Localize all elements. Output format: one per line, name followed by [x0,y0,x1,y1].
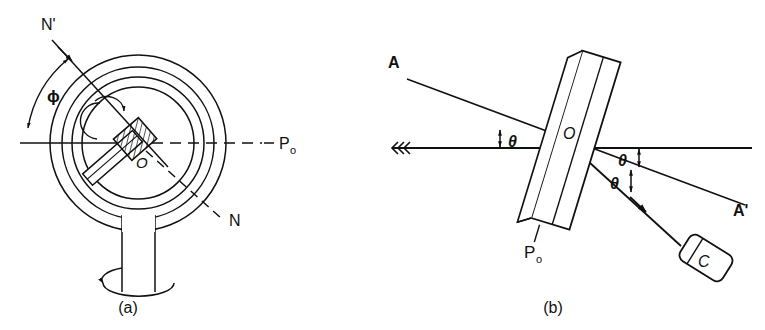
label-plate-p0-subscript: o [536,253,542,265]
caption-panel-a: (a) [118,299,138,316]
label-axis-p0: P [279,135,290,152]
label-plate-p0: P [524,243,535,262]
label-angle-phi: ϕ [47,87,60,106]
label-detector-c: C [698,253,710,270]
caption-panel-b: (b) [543,299,563,316]
stem-ring-join-mask [122,215,155,232]
label-ray-aprime: A' [733,202,748,219]
label-centre-o-b: O [563,125,575,142]
label-ray-a: A [388,54,400,71]
label-angle-theta-2: θ [618,152,627,169]
label-normal-n: N [229,212,241,229]
label-angle-theta-3: θ [610,175,619,192]
label-axis-p0-subscript: o [290,144,296,156]
label-angle-theta-1: θ [508,133,517,150]
label-centre-o-a: O [136,154,148,171]
label-normal-nprime: N' [41,16,56,33]
figure-root: N' ϕ P o O N (a) [0,0,765,330]
